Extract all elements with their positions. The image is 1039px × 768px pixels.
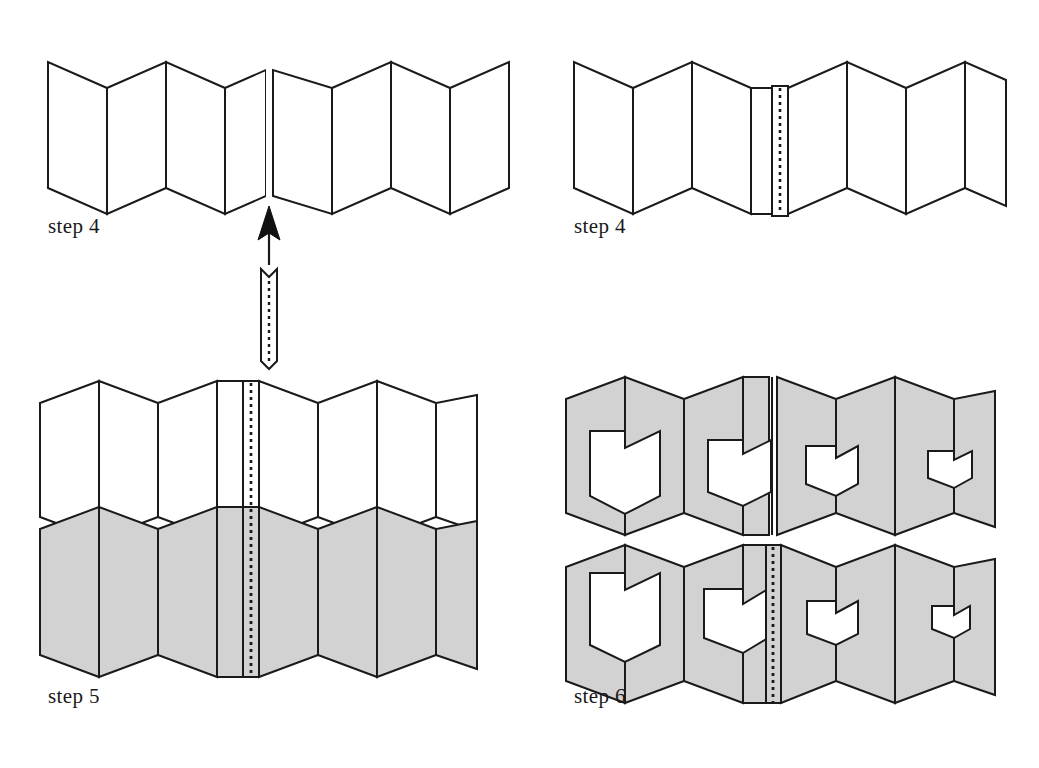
diagram-canvas bbox=[0, 0, 1039, 768]
cut-window bbox=[708, 440, 771, 506]
cut-window bbox=[590, 431, 660, 514]
accordion-facet bbox=[166, 62, 225, 214]
accordion-facet bbox=[391, 62, 450, 214]
accordion-facet bbox=[107, 62, 166, 214]
accordion-facet bbox=[48, 62, 107, 214]
insert-strip-seated bbox=[243, 507, 259, 677]
caption-step5: step 5 bbox=[48, 684, 100, 709]
accordion-cut-lower bbox=[566, 545, 995, 703]
step5-figure bbox=[40, 381, 477, 677]
insert-strip-loose bbox=[261, 269, 277, 369]
accordion-facet bbox=[40, 507, 99, 677]
accordion-facet bbox=[450, 62, 509, 214]
accordion-facet bbox=[318, 507, 377, 677]
accordion-facet bbox=[158, 507, 217, 677]
accordion-facet bbox=[225, 70, 266, 214]
accordion-facet bbox=[965, 62, 1006, 206]
accordion-facet bbox=[633, 62, 692, 214]
accordion-facet bbox=[217, 507, 246, 677]
accordion-facet bbox=[906, 62, 965, 214]
accordion-facet bbox=[847, 62, 906, 214]
accordion-facet bbox=[788, 62, 847, 214]
accordion-facet bbox=[692, 62, 751, 214]
insert-strip-seated bbox=[766, 545, 781, 703]
accordion-facet bbox=[574, 62, 633, 214]
accordion-left-half bbox=[48, 62, 266, 214]
caption-step4-left: step 4 bbox=[48, 214, 100, 239]
accordion-facet bbox=[436, 521, 477, 669]
accordion-facet bbox=[99, 507, 158, 677]
cut-window bbox=[590, 573, 660, 662]
accordion-facet bbox=[436, 395, 477, 531]
origami-diagram-figure: step 4 step 4 step 5 step 6 bbox=[0, 0, 1039, 768]
caption-step6: step 6 bbox=[574, 684, 626, 709]
accordion-facet bbox=[377, 507, 436, 677]
step4-right-figure bbox=[574, 62, 1006, 216]
accordion-right-half bbox=[273, 62, 509, 214]
accordion-shaded bbox=[40, 507, 477, 677]
accordion-facet bbox=[259, 507, 318, 677]
step4-left-figure bbox=[48, 62, 509, 369]
accordion-facet bbox=[332, 62, 391, 214]
accordion-facet bbox=[273, 70, 332, 214]
caption-step4-right: step 4 bbox=[574, 214, 626, 239]
step6-figure bbox=[566, 377, 995, 703]
insert-strip-seated bbox=[772, 86, 788, 216]
insertion-arrow-icon bbox=[258, 206, 280, 265]
accordion-cut-upper bbox=[566, 377, 995, 535]
